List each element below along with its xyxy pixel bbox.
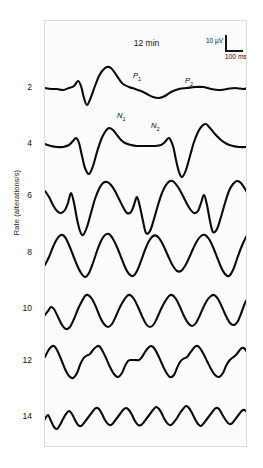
y-axis-title: Rate (alterations/s) bbox=[12, 143, 21, 263]
trace-rate-6 bbox=[45, 181, 247, 235]
trace-rate-2 bbox=[45, 67, 247, 105]
y-tick-12: 12 bbox=[6, 355, 32, 365]
y-tick-14: 14 bbox=[6, 411, 32, 421]
y-tick-2: 2 bbox=[6, 82, 32, 92]
trace-rate-4 bbox=[45, 124, 247, 177]
plot-area: 12 min 10 µV 100 ms P1 N1 N2 P2 bbox=[44, 20, 247, 447]
trace-rate-14 bbox=[45, 406, 247, 429]
y-tick-6: 6 bbox=[6, 190, 32, 200]
trace-rate-8 bbox=[45, 234, 247, 277]
vep-figure: Rate (alterations/s) 2 4 6 8 10 12 14 12… bbox=[0, 0, 263, 468]
y-tick-8: 8 bbox=[6, 247, 32, 257]
trace-rate-12 bbox=[45, 346, 247, 378]
waveform-traces bbox=[45, 21, 247, 447]
trace-rate-10 bbox=[45, 295, 247, 329]
y-tick-10: 10 bbox=[6, 303, 32, 313]
y-tick-4: 4 bbox=[6, 138, 32, 148]
